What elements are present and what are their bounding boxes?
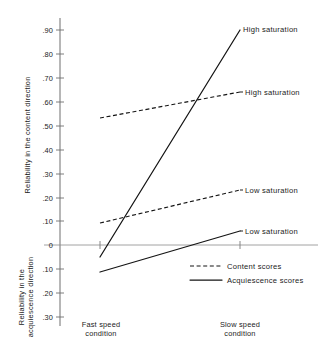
y-tick-label-neg10: .10 — [42, 265, 53, 274]
y-tick-label-40: .40 — [42, 146, 53, 155]
x-category-labels: Fast speed condition Slow speed conditio… — [82, 320, 260, 338]
series-line-content-low-saturation — [100, 190, 240, 223]
x-label-fast-line1: Fast speed — [82, 320, 121, 329]
series-line-content-high-saturation — [100, 92, 240, 118]
y-tick-label-neg20: .20 — [42, 289, 53, 298]
legend-label-content-scores: Content scores — [227, 262, 282, 271]
y-axis-title-content-direction: Reliability in the content direction — [23, 76, 32, 193]
annotation-label-high-saturation-acquiescence: High saturation — [243, 25, 298, 34]
annotation-content-high: High saturation — [240, 88, 300, 97]
x-label-fast-line2: condition — [85, 329, 116, 338]
y-tick-label-20: .20 — [42, 194, 53, 203]
y-axis-title-acquiescence-line2: acquiescence direction — [26, 257, 35, 338]
y-tick-label-60: .60 — [42, 98, 53, 107]
y-axis-title-lower: Reliability in the acquiescence directio… — [17, 257, 35, 338]
y-axis-title-acquiescence-line1: Reliability in the — [17, 269, 26, 325]
y-tick-label-10: .10 — [42, 217, 53, 226]
y-tick-label-30: .30 — [42, 170, 53, 179]
legend-label-acquiescence-scores: Acquiescence scores — [227, 276, 304, 285]
annotation-label-low-saturation-acquiescence: Low saturation — [245, 227, 298, 236]
x-label-slow-line2: condition — [224, 329, 255, 338]
chart-figure: .90 .80 .70 .60 .50 .40 .30 .20 .10 0 .1… — [0, 0, 325, 361]
y-axis-title-upper: Reliability in the content direction — [23, 76, 32, 193]
y-tick-label-0: 0 — [49, 241, 53, 250]
annotation-label-low-saturation-content: Low saturation — [245, 186, 298, 195]
y-ticks-upper: .90 .80 .70 .60 .50 .40 .30 .20 .10 0 — [42, 26, 64, 250]
chart-legend: Content scores Acquiescence scores — [190, 262, 304, 285]
y-tick-label-90: .90 — [42, 26, 53, 35]
x-label-slow-line1: Slow speed — [220, 320, 260, 329]
series-line-acquiescence-high-saturation — [100, 30, 240, 257]
annotation-acquiescence-low: Low saturation — [240, 227, 298, 236]
annotation-content-low: Low saturation — [240, 186, 298, 195]
y-ticks-lower: .10 .20 .30 — [42, 265, 64, 322]
annotation-label-high-saturation-content: High saturation — [245, 88, 300, 97]
annotation-acquiescence-high: High saturation — [243, 25, 298, 34]
y-tick-label-neg30: .30 — [42, 313, 53, 322]
y-tick-label-80: .80 — [42, 50, 53, 59]
y-tick-label-70: .70 — [42, 74, 53, 83]
reliability-line-chart: .90 .80 .70 .60 .50 .40 .30 .20 .10 0 .1… — [0, 0, 325, 361]
y-tick-label-50: .50 — [42, 122, 53, 131]
